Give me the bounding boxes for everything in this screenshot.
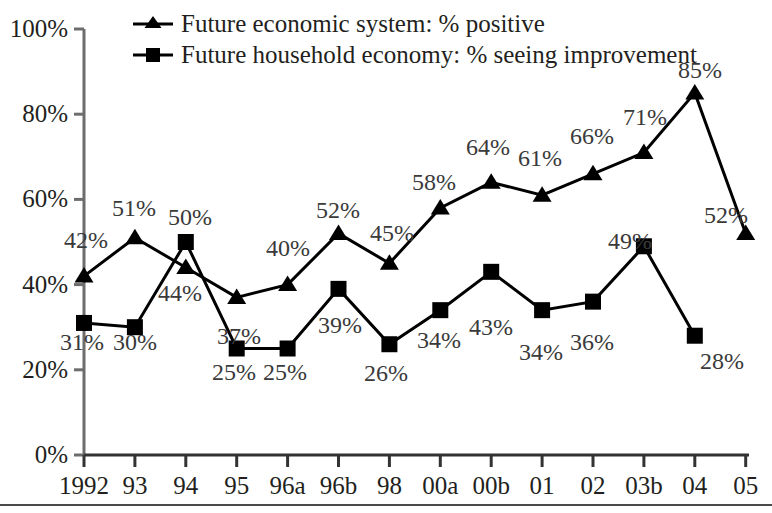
data-point-label: 34% — [519, 340, 563, 364]
data-point-label: 37% — [217, 324, 261, 348]
y-tick-label: 0% — [0, 442, 68, 467]
data-point-square — [178, 234, 194, 250]
data-point-label: 58% — [412, 170, 456, 194]
data-point-label: 49% — [608, 229, 652, 253]
y-tick-label: 100% — [0, 16, 68, 41]
data-point-triangle — [685, 84, 704, 100]
data-point-square — [534, 302, 550, 318]
data-point-label: 61% — [518, 146, 562, 170]
data-point-label: 44% — [158, 281, 202, 305]
legend-marker-household — [133, 48, 173, 62]
data-point-label: 25% — [263, 360, 307, 384]
data-point-label: 66% — [570, 124, 614, 148]
y-tick-label: 20% — [0, 357, 68, 382]
data-point-label: 36% — [570, 330, 614, 354]
data-point-label: 51% — [112, 196, 156, 220]
data-point-label: 28% — [700, 349, 744, 373]
x-tick-label: 05 — [701, 473, 772, 498]
data-point-label: 40% — [266, 236, 310, 260]
data-point-square — [585, 294, 601, 310]
data-point-label: 85% — [678, 58, 722, 82]
data-point-label: 52% — [704, 203, 748, 227]
data-point-label: 45% — [370, 221, 414, 245]
y-tick-label: 80% — [0, 101, 68, 126]
x-axis-ticks — [84, 455, 746, 467]
data-point-label: 34% — [417, 328, 461, 352]
chart-container: Future economic system: % positive Futur… — [0, 0, 772, 513]
data-point-label: 52% — [316, 198, 360, 222]
y-tick-label: 40% — [0, 272, 68, 297]
legend-label-household: Future household economy: % seeing impro… — [181, 42, 697, 67]
data-point-square — [687, 328, 703, 344]
data-point-square — [432, 302, 448, 318]
data-point-label: 26% — [364, 361, 408, 385]
data-point-label: 31% — [60, 330, 104, 354]
data-point-square — [280, 341, 296, 357]
data-point-label: 42% — [64, 228, 108, 252]
legend-marker-economic — [133, 16, 173, 28]
data-point-label: 50% — [168, 205, 212, 229]
data-point-square — [331, 281, 347, 297]
data-point-label: 25% — [212, 360, 256, 384]
data-point-triangle — [482, 173, 501, 189]
data-point-square — [381, 336, 397, 352]
chart-plot-area — [0, 0, 772, 513]
legend-label-economic: Future economic system: % positive — [181, 11, 545, 36]
data-point-label: 64% — [466, 135, 510, 159]
data-point-label: 30% — [113, 330, 157, 354]
data-point-triangle — [176, 259, 195, 275]
data-point-triangle — [431, 199, 450, 215]
data-point-label: 71% — [623, 105, 667, 129]
data-point-triangle — [329, 224, 348, 240]
data-point-square — [483, 264, 499, 280]
data-point-label: 43% — [469, 315, 513, 339]
data-point-triangle — [125, 229, 144, 245]
y-tick-label: 60% — [0, 186, 68, 211]
data-point-label: 39% — [318, 313, 362, 337]
